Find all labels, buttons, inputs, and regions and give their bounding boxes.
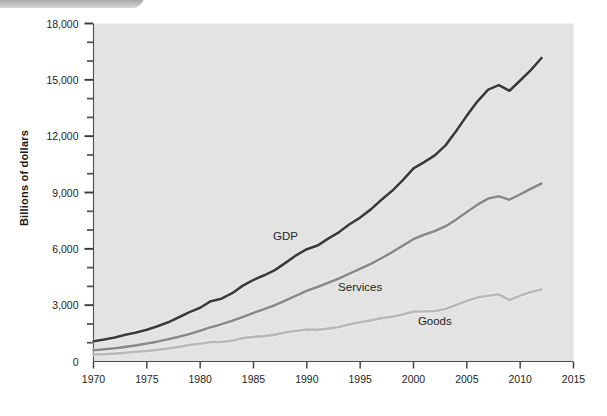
y-axis-tick-label: 9,000 — [52, 187, 78, 199]
y-axis-tick-label: 6,000 — [52, 243, 78, 255]
y-axis-tick-label: 3,000 — [52, 299, 78, 311]
y-axis-tick-label: 0 — [73, 356, 79, 368]
x-axis-tick-label: 2015 — [562, 373, 586, 385]
x-axis-tick-label: 1970 — [82, 373, 106, 385]
x-axis-tick-label: 2005 — [455, 373, 479, 385]
series-label-gdp: GDP — [273, 230, 298, 242]
series-label-services: Services — [338, 281, 382, 293]
plot-area-background — [94, 24, 574, 362]
x-axis-tick-label: 1985 — [242, 373, 266, 385]
chart-figure: Billions of dollars 03,0006,0009,00012,0… — [0, 0, 607, 416]
x-axis-tick-label: 1975 — [135, 373, 159, 385]
x-axis-tick-label: 1995 — [348, 373, 372, 385]
y-axis-tick-label: 18,000 — [46, 18, 78, 30]
x-axis-tick-label: 1990 — [295, 373, 319, 385]
x-axis-tick-label: 2010 — [508, 373, 532, 385]
x-axis-tick-label: 1980 — [188, 373, 212, 385]
line-chart: 03,0006,0009,00012,00015,00018,000197019… — [0, 0, 607, 416]
y-axis-tick-label: 12,000 — [46, 130, 78, 142]
y-axis-tick-label: 15,000 — [46, 74, 78, 86]
series-label-goods: Goods — [418, 315, 452, 327]
x-axis-tick-label: 2000 — [402, 373, 426, 385]
